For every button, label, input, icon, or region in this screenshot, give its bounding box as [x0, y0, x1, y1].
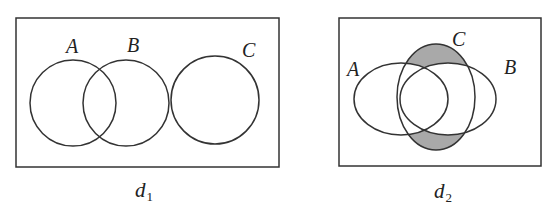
caption-d1: d1: [135, 178, 153, 204]
set-c-label: C: [452, 28, 466, 50]
diagram-d1: A B C d1: [16, 18, 279, 204]
set-a-label: A: [345, 58, 360, 80]
set-a-circle: [30, 60, 116, 146]
shaded-region: [380, 40, 500, 160]
universe-rect: [16, 18, 279, 167]
set-b-label: B: [127, 34, 139, 56]
venn-diagrams: A B C d1 A B C d2: [0, 0, 550, 217]
set-a-label: A: [64, 35, 79, 57]
diagram-d2: A B C d2: [339, 18, 541, 205]
caption-d2: d2: [434, 179, 452, 205]
set-b-circle: [83, 60, 169, 146]
set-c-label: C: [242, 39, 256, 61]
set-c-circle: [171, 56, 259, 144]
set-b-label: B: [504, 56, 516, 78]
